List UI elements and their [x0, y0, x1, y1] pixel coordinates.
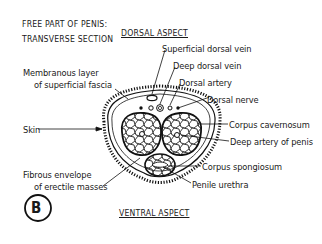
label-erectile-masses: of erectile masses	[34, 181, 107, 192]
label-corpus-spongiosum: Corpus spongiosum	[202, 161, 282, 172]
label-superficial-dorsal-vein: Superficial dorsal vein	[162, 43, 251, 54]
label-deep-dorsal-vein: Deep dorsal vein	[173, 60, 241, 71]
ventral-aspect-label: VENTRAL ASPECT	[119, 207, 189, 219]
corpus-spongiosum	[145, 154, 175, 176]
corpus-cavernosum-right	[162, 113, 201, 155]
label-fibrous-envelope: Fibrous envelope	[23, 169, 91, 180]
corpus-cavernosum-left	[122, 113, 161, 155]
title-line-1: FREE PART OF PENIS:	[22, 18, 107, 30]
title-line-2: TRANSVERSE SECTION	[22, 33, 113, 45]
label-skin: Skin	[23, 124, 40, 135]
label-deep-artery: Deep artery of penis	[230, 136, 313, 147]
dorsal-aspect-label: DORSAL ASPECT	[121, 27, 188, 39]
label-membranous-layer: Membranous layer	[23, 67, 99, 78]
label-corpus-cavernosum: Corpus cavernosum	[229, 119, 310, 130]
panel-letter: B	[31, 200, 41, 216]
label-dorsal-artery: Dorsal artery	[179, 77, 232, 88]
label-superficial-fascia: of superficial fascia	[34, 79, 112, 90]
label-dorsal-nerve: Dorsal nerve	[207, 94, 259, 105]
label-penile-urethra: Penile urethra	[192, 179, 248, 190]
